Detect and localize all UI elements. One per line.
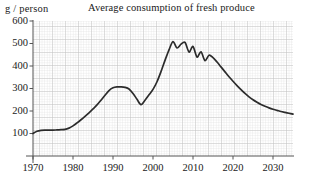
y-axis-tick-label: 500 bbox=[2, 38, 28, 49]
y-axis-tick-label: 600 bbox=[2, 16, 28, 27]
x-axis-tick-label: 2020 bbox=[213, 163, 253, 174]
y-axis-tick-label: 400 bbox=[2, 61, 28, 72]
x-axis-tick-label: 1990 bbox=[93, 163, 133, 174]
y-axis-tick-label: 300 bbox=[2, 83, 28, 94]
x-axis-tick-label: 1970 bbox=[13, 163, 53, 174]
x-axis-tick-label: 2000 bbox=[133, 163, 173, 174]
x-axis-tick-label: 2010 bbox=[173, 163, 213, 174]
chart-container: g / person Average consumption of fresh … bbox=[0, 0, 321, 187]
y-axis-tick-label: 200 bbox=[2, 106, 28, 117]
x-axis-tick-label: 1980 bbox=[53, 163, 93, 174]
grid-layer bbox=[33, 21, 293, 156]
plot-area bbox=[0, 0, 321, 187]
x-axis-tick-label: 2030 bbox=[253, 163, 293, 174]
y-axis-tick-label: 100 bbox=[2, 128, 28, 139]
